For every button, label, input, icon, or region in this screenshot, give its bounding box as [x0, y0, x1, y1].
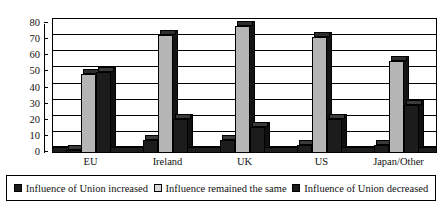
legend-swatch-icon	[154, 184, 162, 192]
bar-front-face	[312, 37, 327, 153]
bar-front-face	[96, 72, 111, 153]
y-tick-label: 60	[14, 50, 40, 60]
y-axis: 01020304050607080	[10, 18, 40, 153]
bar-top-face	[314, 32, 330, 37]
bar-top-face	[175, 114, 191, 119]
bar-side-face	[188, 114, 193, 148]
bar-front-face	[374, 145, 389, 153]
bar[interactable]	[389, 61, 404, 153]
y-tick-mark	[44, 70, 48, 71]
y-tick-mark	[44, 119, 48, 120]
x-tick-label: Ireland	[129, 156, 206, 168]
bar-front-face	[389, 61, 404, 153]
bar-front-face	[250, 127, 265, 153]
bar-group	[360, 24, 437, 153]
bar-front-face	[327, 119, 342, 153]
bar-front-face	[143, 140, 158, 153]
legend-item[interactable]: Influence of Union decreased	[292, 183, 428, 194]
bar[interactable]	[143, 140, 158, 153]
bar-top-face	[406, 100, 422, 105]
bar-top-face	[252, 122, 268, 127]
bar-front-face	[158, 35, 173, 153]
x-tick-label: EU	[52, 156, 129, 168]
bar-side-face	[419, 100, 424, 148]
legend-swatch-icon	[14, 184, 22, 192]
bar[interactable]	[81, 74, 96, 153]
bar-top-face	[329, 114, 345, 119]
bar[interactable]	[327, 119, 342, 153]
y-tick-mark	[44, 22, 48, 23]
bar-top-face	[98, 67, 114, 72]
y-tick-label: 10	[14, 131, 40, 141]
x-tick-label: Japan/Other	[360, 156, 437, 168]
bar[interactable]	[66, 150, 81, 153]
x-axis: EUIrelandUKUSJapan/Other	[44, 156, 443, 172]
bar-top-face	[237, 21, 253, 26]
legend-item[interactable]: Influence remained the same	[154, 183, 287, 194]
bar[interactable]	[297, 145, 312, 153]
bar-front-face	[220, 140, 235, 153]
y-axis-line	[44, 24, 45, 153]
bar-top-face	[391, 56, 407, 61]
bar[interactable]	[158, 35, 173, 153]
chart-legend: Influence of Union increasedInfluence re…	[6, 175, 436, 201]
bar[interactable]	[404, 105, 419, 153]
bar[interactable]	[312, 37, 327, 153]
bar-side-face	[342, 114, 347, 148]
bar-front-face	[297, 145, 312, 153]
y-tick-label: 80	[14, 18, 40, 28]
bar-front-face	[235, 26, 250, 153]
y-tick-label: 0	[14, 147, 40, 157]
bar-front-face	[173, 119, 188, 153]
legend-label: Influence of Union increased	[26, 183, 148, 194]
bar-group	[206, 24, 283, 153]
y-tick-label: 70	[14, 34, 40, 44]
y-tick-mark	[44, 103, 48, 104]
y-tick-mark	[44, 54, 48, 55]
y-tick-label: 50	[14, 66, 40, 76]
bar-side-face	[111, 67, 116, 148]
bar[interactable]	[235, 26, 250, 153]
bar-front-face	[404, 105, 419, 153]
bar-group	[283, 24, 360, 153]
bar-top-face	[160, 30, 176, 35]
bar-group	[52, 24, 129, 153]
y-tick-mark	[44, 151, 48, 152]
y-tick-label: 40	[14, 83, 40, 93]
bar[interactable]	[220, 140, 235, 153]
y-tick-label: 20	[14, 115, 40, 125]
y-tick-label: 30	[14, 99, 40, 109]
bar-group	[129, 24, 206, 153]
bar-front-face	[66, 150, 81, 153]
bar[interactable]	[96, 72, 111, 153]
bar[interactable]	[173, 119, 188, 153]
bar[interactable]	[250, 127, 265, 153]
bar-front-face	[81, 74, 96, 153]
x-tick-label: US	[283, 156, 360, 168]
y-tick-mark	[44, 38, 48, 39]
legend-item[interactable]: Influence of Union increased	[14, 183, 148, 194]
gridline	[52, 18, 437, 19]
plot-area	[44, 18, 437, 153]
y-tick-mark	[44, 87, 48, 88]
legend-label: Influence remained the same	[166, 183, 287, 194]
legend-label: Influence of Union decreased	[304, 183, 428, 194]
bar[interactable]	[374, 145, 389, 153]
y-tick-mark	[44, 135, 48, 136]
x-tick-label: UK	[206, 156, 283, 168]
legend-swatch-icon	[292, 184, 300, 192]
